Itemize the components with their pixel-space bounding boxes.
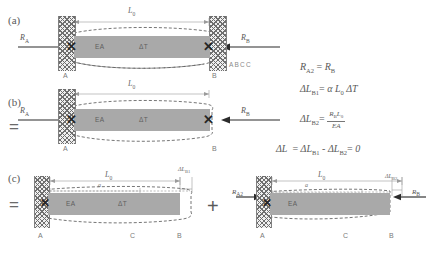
reaction-label-RA2-c-right: RA2 bbox=[232, 188, 243, 197]
pin-marker-left-b: ✕ bbox=[66, 113, 77, 126]
reaction-label-RB-b: RB bbox=[241, 106, 250, 117]
node-label-A-b: A bbox=[63, 145, 68, 152]
node-label-A-c-left: A bbox=[38, 232, 43, 239]
bar-label-EA-a: EA bbox=[95, 43, 104, 50]
node-label-B-c-right: B bbox=[389, 232, 394, 239]
bar-label-EA-b: EA bbox=[95, 116, 104, 123]
node-label-A-c-right: A bbox=[260, 232, 265, 239]
bar-label-deltaT-a: ΔT bbox=[139, 43, 148, 50]
node-label-A-a: A bbox=[63, 72, 68, 79]
pin-marker-right-a: ✕ bbox=[203, 40, 214, 53]
equation-reaction-equality: RA2 = RB bbox=[300, 56, 335, 74]
reaction-label-RA-b: RA bbox=[20, 106, 29, 117]
bar-label-deltaT-b: ΔT bbox=[139, 116, 148, 123]
reaction-label-RB-c-right: RB bbox=[412, 188, 420, 197]
node-label-C-c-left: C bbox=[130, 232, 135, 239]
node-label-B-c-left: B bbox=[177, 232, 182, 239]
pin-marker-c-left: ✕ bbox=[40, 197, 50, 209]
reaction-label-RA-a: RA bbox=[20, 33, 29, 44]
pin-marker-left-a: ✕ bbox=[66, 40, 77, 53]
bar-label-deltaT-c-left: ΔT bbox=[118, 200, 127, 207]
bar-label-EA-c-left: EA bbox=[66, 200, 75, 207]
pin-marker-right-b: ✕ bbox=[203, 113, 214, 126]
bar-label-EA-c-right: EA bbox=[288, 200, 297, 207]
node-label-B-a: B bbox=[212, 72, 217, 79]
figure-canvas: (a) L0L0 ✕ ✕ EA ΔT RA RB A B ABCC RA2 = … bbox=[0, 0, 437, 253]
note-abcc: ABCC bbox=[229, 61, 252, 68]
node-label-C-c-right: C bbox=[343, 232, 348, 239]
pin-marker-c-right: ✕ bbox=[262, 197, 272, 209]
reaction-label-RB-a: RB bbox=[241, 33, 250, 44]
node-label-B-b: B bbox=[212, 145, 217, 152]
